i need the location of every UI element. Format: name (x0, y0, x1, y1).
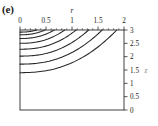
z-tick-label: 2.5 (130, 40, 139, 48)
r-tick-label: 2 (122, 17, 126, 25)
plot-area: 0 0.5 1 1.5 2 r 3 2.5 2 1.5 1 0.5 0 (0, 0, 158, 126)
z-axis-major-ticks (124, 30, 128, 110)
z-tick-label: 3 (130, 27, 134, 35)
z-axis-title: z (144, 66, 148, 75)
r-tick-label: 0 (18, 17, 22, 25)
contour-curve (20, 30, 117, 73)
z-axis-tick-labels: 3 2.5 2 1.5 1 0.5 0 (130, 27, 139, 115)
z-tick-label: 2 (130, 53, 134, 61)
z-tick-label: 1.5 (130, 67, 139, 75)
figure-panel-e: (e) (0, 0, 158, 126)
contour-curve (20, 30, 102, 64)
contour-curves (20, 30, 117, 73)
r-axis-tick-labels: 0 0.5 1 1.5 2 (18, 17, 126, 25)
z-tick-label: 0 (130, 107, 134, 115)
r-tick-label: 1.5 (94, 17, 103, 25)
r-tick-label: 0.5 (42, 17, 51, 25)
r-tick-label: 1 (70, 17, 74, 25)
z-tick-label: 1 (130, 80, 134, 88)
z-tick-label: 0.5 (130, 93, 139, 101)
r-axis-title: r (71, 6, 74, 15)
